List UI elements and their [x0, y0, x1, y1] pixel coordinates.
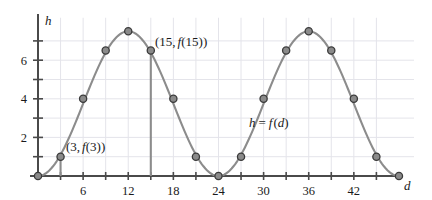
y-tick-label: 6 [21, 54, 27, 68]
data-point-marker [283, 47, 290, 54]
x-tick-label: 18 [167, 184, 180, 198]
data-point-marker [147, 47, 154, 54]
annotation-point-15-close: (15)) [181, 34, 207, 49]
y-tick-label: 2 [21, 131, 27, 145]
annotation-point-3-open: (3, [66, 139, 80, 154]
annotation-point-3: (3,f(3)) [66, 139, 105, 154]
y-tick-label: 4 [21, 92, 28, 106]
data-point-marker [373, 153, 380, 160]
chart-canvas: 6121824303642246 h d (3,f(3)) (15,f(15))… [0, 0, 432, 200]
annotation-func-paren-close: ) [284, 115, 288, 130]
x-tick-label: 24 [212, 184, 225, 198]
data-point-marker [102, 47, 109, 54]
x-axis-label: d [404, 178, 411, 193]
annotation-point-3-close: (3)) [86, 139, 106, 154]
data-point-marker [215, 172, 222, 179]
x-tick-label: 30 [257, 184, 270, 198]
data-point-marker [350, 95, 357, 102]
data-point-marker [305, 28, 312, 35]
data-point-marker [237, 153, 244, 160]
annotation-point-15-open: (15, [155, 34, 176, 49]
data-point-marker [170, 95, 177, 102]
data-point-marker [328, 47, 335, 54]
annotation-func-eq: = [259, 115, 266, 130]
data-point-marker [260, 95, 267, 102]
x-tick-label: 42 [348, 184, 361, 198]
data-point-marker [57, 153, 64, 160]
data-point-marker [395, 172, 402, 179]
annotation-func-h: h [249, 115, 256, 130]
x-tick-label: 36 [302, 184, 315, 198]
x-tick-label: 12 [122, 184, 135, 198]
axis-ticks-group [33, 41, 376, 180]
annotation-function-label: h=f(d) [249, 115, 289, 130]
data-point-marker [125, 28, 132, 35]
data-point-marker [34, 172, 41, 179]
annotation-point-15: (15,f(15)) [155, 34, 207, 49]
x-tick-label: 6 [80, 184, 86, 198]
data-point-marker [192, 153, 199, 160]
data-point-marker [80, 95, 87, 102]
chart-figure: 6121824303642246 h d (3,f(3)) (15,f(15))… [0, 0, 432, 200]
y-axis-label: h [45, 13, 52, 28]
